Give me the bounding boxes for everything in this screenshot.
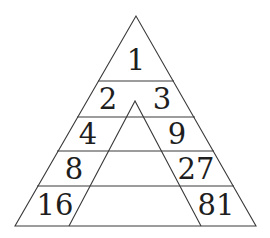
cell-top: 1 <box>127 43 145 77</box>
cell-row4-right: 27 <box>178 152 215 186</box>
cell-row5-left: 16 <box>37 188 74 222</box>
cell-row5-right: 81 <box>198 188 235 222</box>
number-pyramid-diagram: 1 2 3 4 9 8 27 16 81 <box>0 0 270 238</box>
cell-row4-left: 8 <box>65 152 83 186</box>
cell-row2-left: 2 <box>99 82 117 116</box>
cell-row3-right: 9 <box>168 117 186 151</box>
cell-row2-right: 3 <box>153 82 171 116</box>
cell-row3-left: 4 <box>79 117 97 151</box>
